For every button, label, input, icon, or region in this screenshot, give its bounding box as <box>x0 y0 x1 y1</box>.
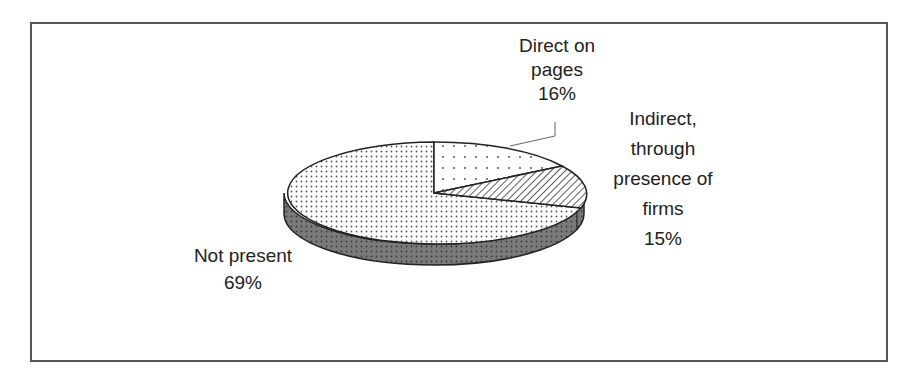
label-not-present: Not present 69% <box>178 242 308 296</box>
pie-chart <box>0 0 917 383</box>
label-direct-on-pages: Direct on pages 16% <box>512 34 602 106</box>
label-indirect: Indirect, through presence of firms 15% <box>593 104 733 254</box>
leader-line-direct <box>510 122 555 146</box>
